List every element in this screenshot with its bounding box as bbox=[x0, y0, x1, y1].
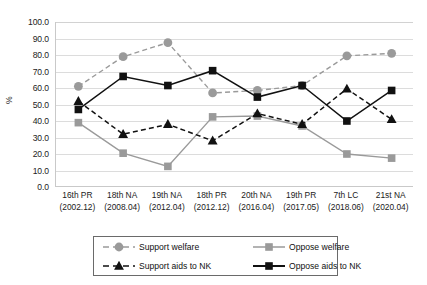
x-axis-tick: 18th PR(2012.12) bbox=[194, 190, 230, 213]
data-point-triangle bbox=[387, 114, 397, 123]
y-axis-tick: 70.0 bbox=[33, 67, 49, 77]
x-axis-tick-labels: 16th PR(2002.12)18th NA(2008.04)19th NA(… bbox=[55, 190, 413, 224]
y-axis-tick: 50.0 bbox=[33, 100, 49, 110]
series-line bbox=[78, 43, 391, 93]
x-axis-tick-date: (2016.04) bbox=[238, 201, 274, 213]
data-point-square bbox=[265, 243, 273, 251]
x-axis-tick-name: 19th NA bbox=[149, 190, 185, 201]
data-point-square bbox=[209, 113, 217, 121]
data-point-triangle bbox=[163, 119, 173, 128]
data-point-square bbox=[119, 73, 127, 81]
data-point-circle bbox=[208, 89, 217, 98]
data-point-square bbox=[254, 93, 262, 101]
legend-label: Support welfare bbox=[139, 242, 199, 252]
data-point-square bbox=[75, 106, 83, 114]
data-point-square bbox=[298, 82, 306, 90]
data-point-circle bbox=[342, 51, 351, 60]
x-axis-tick-date: (2020.04) bbox=[373, 201, 409, 213]
x-axis-tick-date: (2012.04) bbox=[149, 201, 185, 213]
legend-item[interactable]: Support welfare bbox=[96, 242, 246, 252]
data-point-circle bbox=[387, 49, 396, 58]
series-line bbox=[78, 89, 391, 141]
x-axis-tick-date: (2018.06) bbox=[328, 201, 364, 213]
x-axis-tick: 19th NA(2012.04) bbox=[149, 190, 185, 213]
legend-item[interactable]: Oppose welfare bbox=[246, 242, 341, 252]
y-axis-tick: 10.0 bbox=[33, 166, 49, 176]
legend-label: Oppose aids to NK bbox=[289, 261, 361, 271]
x-axis-tick: 21st NA(2020.04) bbox=[373, 190, 409, 213]
x-axis-tick-name: 21st NA bbox=[373, 190, 409, 201]
data-point-circle bbox=[115, 242, 124, 251]
data-point-square bbox=[164, 82, 172, 90]
y-axis-tick: 90.0 bbox=[33, 34, 49, 44]
data-point-triangle bbox=[342, 84, 352, 93]
chart-legend: Support welfareOppose welfareSupport aid… bbox=[93, 236, 338, 276]
data-point-circle bbox=[119, 52, 128, 61]
y-axis-tick: 0.0 bbox=[37, 182, 49, 192]
legend-item[interactable]: Support aids to NK bbox=[96, 261, 246, 271]
data-point-triangle bbox=[73, 96, 83, 105]
x-axis-tick-date: (2012.12) bbox=[194, 201, 230, 213]
data-point-triangle bbox=[208, 136, 218, 145]
data-point-square bbox=[209, 67, 217, 75]
x-axis-tick-name: 19th PR bbox=[283, 190, 319, 201]
legend-label: Support aids to NK bbox=[139, 261, 211, 271]
y-axis-tick: 60.0 bbox=[33, 83, 49, 93]
legend-key-circle-icon bbox=[102, 242, 136, 252]
x-axis-tick: 20th NA(2016.04) bbox=[238, 190, 274, 213]
x-axis-tick: 16th PR(2002.12) bbox=[59, 190, 95, 213]
y-axis-tick: 100.0 bbox=[28, 17, 49, 27]
data-point-square bbox=[343, 150, 351, 158]
data-point-square bbox=[119, 149, 127, 157]
x-axis-tick-name: 20th NA bbox=[238, 190, 274, 201]
legend-key-triangle-icon bbox=[102, 261, 136, 271]
x-axis-tick-name: 18th PR bbox=[194, 190, 230, 201]
x-axis-tick-name: 16th PR bbox=[59, 190, 95, 201]
series-layer bbox=[56, 22, 414, 187]
legend-key-square-icon bbox=[252, 242, 286, 252]
x-axis-tick-name: 7th LC bbox=[328, 190, 364, 201]
data-point-square bbox=[388, 87, 396, 95]
data-point-square bbox=[343, 117, 351, 125]
legend-label: Oppose welfare bbox=[289, 242, 349, 252]
data-point-square bbox=[388, 154, 396, 162]
plot-area bbox=[55, 22, 413, 187]
data-point-circle bbox=[163, 38, 172, 47]
data-point-square bbox=[75, 119, 83, 127]
x-axis-tick: 18th NA(2008.04) bbox=[104, 190, 140, 213]
x-axis-tick-name: 18th NA bbox=[104, 190, 140, 201]
y-axis-tick: 80.0 bbox=[33, 50, 49, 60]
y-axis-tick: 30.0 bbox=[33, 133, 49, 143]
data-point-circle bbox=[74, 82, 83, 91]
data-point-square bbox=[164, 163, 172, 171]
legend-item[interactable]: Oppose aids to NK bbox=[246, 261, 341, 271]
x-axis-tick-date: (2002.12) bbox=[59, 201, 95, 213]
x-axis-tick-date: (2017.05) bbox=[283, 201, 319, 213]
y-axis-tick: 20.0 bbox=[33, 149, 49, 159]
chart-container: 0.010.020.030.040.050.060.070.080.090.01… bbox=[0, 0, 427, 285]
x-axis-tick: 19th PR(2017.05) bbox=[283, 190, 319, 213]
y-axis-tick-labels: 0.010.020.030.040.050.060.070.080.090.01… bbox=[0, 0, 52, 285]
x-axis-tick-date: (2008.04) bbox=[104, 201, 140, 213]
x-axis-tick: 7th LC(2018.06) bbox=[328, 190, 364, 213]
y-axis-tick: 40.0 bbox=[33, 116, 49, 126]
legend-key-square-icon bbox=[252, 261, 286, 271]
data-point-square bbox=[265, 262, 273, 270]
y-axis-title: % bbox=[4, 96, 14, 104]
